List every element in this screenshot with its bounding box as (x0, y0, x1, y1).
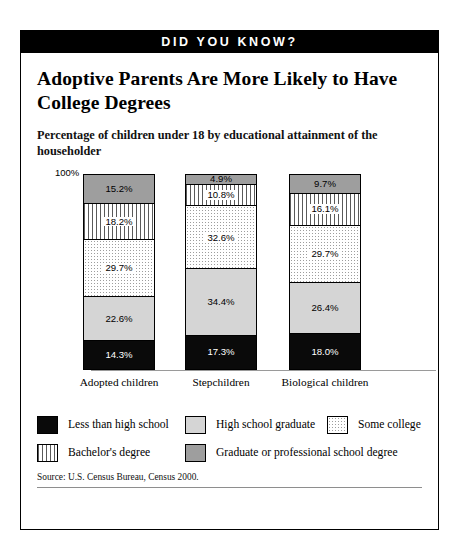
bar-segment: 4.9% (186, 175, 256, 184)
legend-swatch (185, 444, 206, 462)
bar-segment: 29.7% (84, 239, 154, 296)
bar-segment-value: 29.7% (103, 263, 134, 273)
x-axis-baseline (91, 370, 436, 371)
legend-label: Some college (358, 418, 421, 431)
x-axis-labels: Adopted childrenStepchildrenBiological c… (37, 373, 422, 393)
bar-segment: 9.7% (290, 175, 360, 193)
bar-segment: 29.7% (290, 225, 360, 282)
bar-column: 15.2%18.2%29.7%22.6%14.3% (83, 174, 155, 370)
stacked-bar: 9.7%16.1%29.7%26.4%18.0% (289, 174, 361, 370)
legend-item: Graduate or professional school degree (185, 444, 398, 462)
bar-segment: 14.3% (84, 340, 154, 368)
bar-segment: 18.2% (84, 203, 154, 239)
legend-swatch (185, 416, 206, 434)
bar-segment: 15.2% (84, 175, 154, 204)
bar-segment: 22.6% (84, 296, 154, 340)
source-note: Source: U.S. Census Bureau, Census 2000. (37, 472, 422, 482)
bar-segment-value: 14.3% (105, 350, 132, 360)
bar-segment: 18.0% (290, 333, 360, 368)
chart-legend: Less than high schoolHigh school graduat… (37, 416, 422, 470)
bar-segment-value: 16.1% (309, 204, 340, 214)
legend-item: Bachelor's degree (37, 444, 150, 462)
bar-column: 4.9%10.8%32.6%34.4%17.3% (185, 174, 257, 370)
x-axis-label: Biological children (250, 376, 400, 388)
did-you-know-infographic: DID YOU KNOW? Adoptive Parents Are More … (0, 0, 459, 548)
legend-label: Bachelor's degree (68, 446, 150, 459)
bar-segment-value: 4.9% (210, 175, 232, 184)
legend-swatch (37, 416, 58, 434)
legend-label: Graduate or professional school degree (216, 446, 398, 459)
card-body: Adoptive Parents Are More Likely to Have… (21, 53, 438, 529)
bar-segment-value: 10.8% (205, 190, 236, 200)
stacked-bar: 15.2%18.2%29.7%22.6%14.3% (83, 174, 155, 370)
stacked-bar: 4.9%10.8%32.6%34.4%17.3% (185, 174, 257, 370)
legend-label: High school graduate (216, 418, 315, 431)
banner-title: DID YOU KNOW? (161, 35, 297, 49)
legend-label: Less than high school (68, 418, 169, 431)
bar-segment-value: 9.7% (314, 179, 336, 189)
bar-segment: 16.1% (290, 193, 360, 225)
legend-item: High school graduate (185, 416, 315, 434)
bar-segment-value: 17.3% (207, 347, 234, 357)
bar-segment-value: 29.7% (309, 249, 340, 259)
bar-segment-value: 34.4% (207, 297, 234, 307)
bar-column: 9.7%16.1%29.7%26.4%18.0% (289, 174, 361, 370)
page-subtitle: Percentage of children under 18 by educa… (37, 127, 422, 160)
bar-segment: 32.6% (186, 205, 256, 268)
stacked-bar-chart: 100% 15.2%18.2%29.7%22.6%14.3%4.9%10.8%3… (37, 174, 422, 386)
bar-segment-value: 22.6% (105, 314, 132, 324)
bar-segment: 17.3% (186, 335, 256, 369)
banner: DID YOU KNOW? (20, 30, 439, 53)
bar-segment-value: 32.6% (205, 233, 236, 243)
legend-swatch (327, 416, 348, 434)
legend-item: Some college (327, 416, 421, 434)
legend-swatch (37, 444, 58, 462)
bar-segment-value: 18.0% (311, 347, 338, 357)
bar-segment-value: 26.4% (311, 303, 338, 313)
bar-segment-value: 15.2% (105, 184, 132, 194)
bar-segment: 10.8% (186, 184, 256, 206)
source-divider (37, 487, 422, 488)
bar-segment-value: 18.2% (103, 217, 134, 227)
bar-segment: 26.4% (290, 282, 360, 333)
legend-item: Less than high school (37, 416, 169, 434)
bar-group: 15.2%18.2%29.7%22.6%14.3%4.9%10.8%32.6%3… (37, 174, 422, 370)
bar-segment: 34.4% (186, 268, 256, 334)
page-title: Adoptive Parents Are More Likely to Have… (37, 67, 422, 115)
